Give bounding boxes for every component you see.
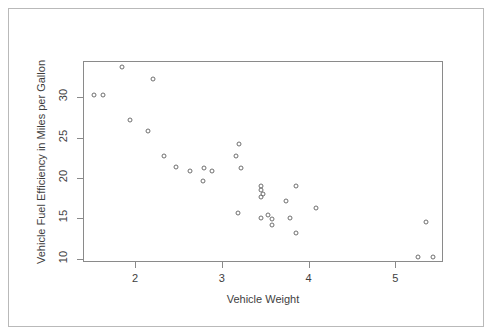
- data-point: [91, 93, 96, 98]
- y-tick-mark: [77, 178, 83, 179]
- data-point: [270, 223, 275, 228]
- data-point: [146, 128, 151, 133]
- data-point: [233, 154, 238, 159]
- x-tick-mark: [222, 262, 223, 268]
- data-point: [201, 165, 206, 170]
- y-tick-mark: [77, 97, 83, 98]
- data-point: [161, 154, 166, 159]
- data-point: [128, 118, 133, 123]
- data-point: [100, 93, 105, 98]
- data-point: [119, 64, 124, 69]
- data-point: [237, 141, 242, 146]
- data-point: [258, 215, 263, 220]
- data-point: [284, 198, 289, 203]
- x-tick-label: 4: [305, 272, 311, 284]
- data-point: [200, 179, 205, 184]
- data-point: [424, 219, 429, 224]
- x-axis-label: Vehicle Weight: [83, 293, 443, 305]
- data-point: [151, 76, 156, 81]
- data-point: [415, 254, 420, 259]
- x-tick-label: 5: [392, 272, 398, 284]
- data-point: [313, 206, 318, 211]
- data-point: [239, 165, 244, 170]
- plot-data-area: [84, 62, 442, 261]
- data-point: [294, 183, 299, 188]
- plot-frame: [83, 61, 443, 262]
- data-point: [174, 164, 179, 169]
- x-tick-label: 2: [132, 272, 138, 284]
- data-point: [270, 217, 275, 222]
- x-tick-mark: [395, 262, 396, 268]
- y-tick-mark: [77, 138, 83, 139]
- y-tick-label: 30: [57, 85, 69, 105]
- data-point: [431, 254, 436, 259]
- data-point: [187, 168, 192, 173]
- data-point: [235, 210, 240, 215]
- data-point: [293, 231, 298, 236]
- x-tick-mark: [309, 262, 310, 268]
- y-tick-label: 25: [57, 126, 69, 146]
- y-tick-mark: [77, 259, 83, 260]
- y-tick-label: 10: [57, 247, 69, 267]
- data-point: [258, 183, 263, 188]
- data-point: [209, 168, 214, 173]
- data-point: [288, 215, 293, 220]
- scatter-plot-figure: 1015202530 2345 Vehicle Fuel Efficiency …: [0, 0, 493, 336]
- data-point: [258, 194, 263, 199]
- x-tick-label: 3: [219, 272, 225, 284]
- x-tick-mark: [135, 262, 136, 268]
- y-axis-label: Vehicle Fuel Efficiency in Miles per Gal…: [33, 61, 49, 262]
- y-axis-label-text: Vehicle Fuel Efficiency in Miles per Gal…: [35, 59, 47, 263]
- y-tick-label: 15: [57, 206, 69, 226]
- y-tick-mark: [77, 218, 83, 219]
- y-tick-label: 20: [57, 166, 69, 186]
